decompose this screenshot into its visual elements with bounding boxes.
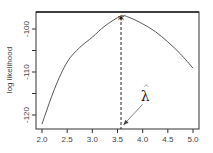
- x-tick-label: 4.0: [137, 135, 149, 144]
- lambda-hat-accent: ^: [143, 84, 150, 93]
- x-tick-label: 2.5: [62, 135, 74, 144]
- log-likelihood-chart: -120-110-100 2.02.53.03.54.04.55.0 log l…: [0, 0, 213, 153]
- y-tick-label: -100: [22, 20, 31, 37]
- x-tick-label: 5.0: [187, 135, 199, 144]
- x-tick-label: 2.0: [36, 135, 48, 144]
- likelihood-curve: [42, 16, 193, 124]
- x-tick-label: 3.0: [87, 135, 99, 144]
- y-tick-label: -110: [22, 64, 31, 80]
- y-axis: -120-110-100: [22, 20, 36, 123]
- x-tick-label: 4.5: [162, 135, 174, 144]
- y-tick-label: -120: [22, 106, 31, 123]
- y-axis-label: log likelihood: [5, 47, 14, 93]
- x-axis: 2.02.53.03.54.04.55.0: [36, 129, 199, 144]
- max-star-marker: *: [118, 12, 125, 27]
- plot-frame: [36, 12, 199, 129]
- x-tick-label: 3.5: [112, 135, 124, 144]
